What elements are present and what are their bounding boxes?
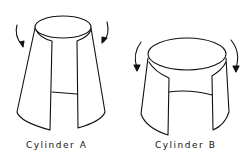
cylinder-b-label: Cylinder B xyxy=(155,140,216,150)
cylinder-a xyxy=(17,16,105,130)
rotation-arrow-icon xyxy=(233,66,239,72)
cylinder-b xyxy=(141,38,229,135)
rotation-arrow-icon xyxy=(20,41,24,47)
cylinder-a-label: Cylinder A xyxy=(26,140,87,150)
diagram xyxy=(0,0,252,157)
rotation-arrow-icon xyxy=(102,37,107,43)
rotation-arrow-icon xyxy=(231,40,238,68)
rotation-arrow-icon xyxy=(134,65,140,71)
rotation-arrow-icon xyxy=(135,42,141,68)
